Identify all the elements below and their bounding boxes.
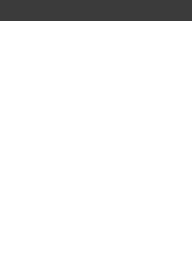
fretboard-diagram — [0, 0, 192, 262]
